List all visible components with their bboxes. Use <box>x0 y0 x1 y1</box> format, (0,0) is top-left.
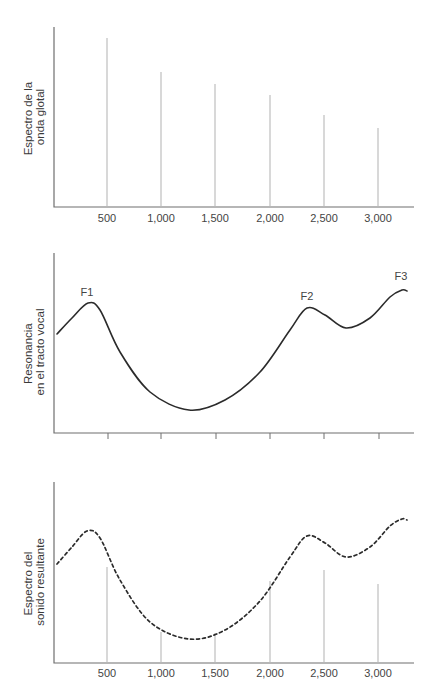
ylabel-line: sonido resultante <box>34 538 46 626</box>
middle-axes <box>54 253 414 433</box>
ylabel-line: Espectro del <box>22 552 34 616</box>
formant-label-f1: F1 <box>81 286 94 298</box>
bottom-y-axis-label: Espectro del sonido resultante <box>22 538 46 626</box>
tick-label: 3,000 <box>364 667 392 679</box>
ylabel-line: Resonancia <box>22 323 34 384</box>
resonance-curve <box>57 290 407 411</box>
tick-label: 1,000 <box>147 667 175 679</box>
top-x-tick-labels: 500 1,000 1,500 2,000 2,500 3,000 <box>98 212 392 224</box>
panel-resulting-spectrum: 500 1,000 1,500 2,000 2,500 3,000 Espect… <box>22 482 414 679</box>
top-y-axis-label: Espectro de la onda glotal <box>22 79 46 156</box>
top-harmonic-bars <box>107 38 378 207</box>
tick-label: 1,500 <box>201 212 229 224</box>
top-axes <box>54 27 414 207</box>
bottom-axes <box>54 482 414 663</box>
bottom-x-tick-labels: 500 1,000 1,500 2,000 2,500 3,000 <box>98 667 392 679</box>
tick-label: 500 <box>98 212 116 224</box>
tick-label: 1,500 <box>201 667 229 679</box>
tick-label: 1,000 <box>147 212 175 224</box>
tick-label: 500 <box>98 667 116 679</box>
tick-label: 3,000 <box>364 212 392 224</box>
formant-label-f2: F2 <box>301 290 314 302</box>
bottom-harmonic-bars <box>107 567 378 663</box>
resulting-envelope-dashed-curve <box>57 519 407 640</box>
tick-label: 2,500 <box>310 212 338 224</box>
ylabel-line: Espectro de la <box>22 81 34 155</box>
ylabel-line: en el tracto vocal <box>34 309 46 396</box>
cut-off-caption-line <box>0 689 434 697</box>
tick-label: 2,500 <box>310 667 338 679</box>
formant-label-f3: F3 <box>395 270 408 282</box>
panel-glottal-spectrum: 500 1,000 1,500 2,000 2,500 3,000 Espect… <box>22 27 414 224</box>
tick-label: 2,000 <box>256 212 284 224</box>
tick-label: 2,000 <box>256 667 284 679</box>
middle-y-axis-label: Resonancia en el tracto vocal <box>22 309 46 396</box>
middle-x-ticks <box>108 433 379 439</box>
panel-vocal-tract-resonance: F1 F2 F3 Resonancia en el tracto vocal <box>22 253 414 439</box>
ylabel-line: onda glotal <box>34 89 46 145</box>
chart-figure: 500 1,000 1,500 2,000 2,500 3,000 Espect… <box>0 0 434 697</box>
